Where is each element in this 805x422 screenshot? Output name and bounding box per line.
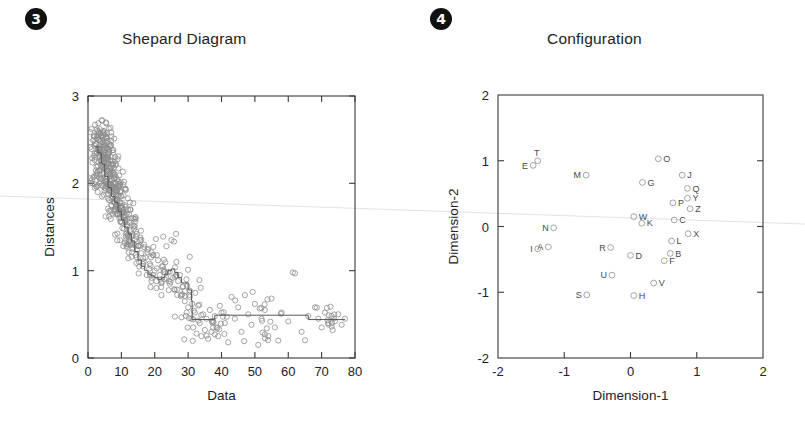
data-point bbox=[147, 261, 152, 266]
data-point bbox=[640, 180, 646, 186]
y-tick-label: 1 bbox=[72, 264, 79, 279]
point-label: H bbox=[639, 291, 646, 301]
x-axis-title: Dimension-1 bbox=[593, 388, 669, 403]
plot-frame bbox=[498, 95, 763, 358]
data-point bbox=[185, 267, 190, 272]
y-tick-label: 2 bbox=[72, 176, 79, 191]
data-point bbox=[239, 329, 244, 334]
point-label: N bbox=[542, 223, 549, 233]
data-point bbox=[250, 289, 255, 294]
point-label: C bbox=[679, 215, 686, 225]
y-tick-label: 0 bbox=[72, 351, 79, 366]
data-point bbox=[268, 319, 273, 324]
data-point bbox=[651, 280, 657, 286]
x-tick-label: 1 bbox=[693, 364, 700, 379]
data-point bbox=[669, 238, 675, 244]
data-point bbox=[679, 172, 685, 178]
data-point bbox=[535, 158, 541, 164]
data-point bbox=[687, 206, 693, 212]
data-point bbox=[319, 325, 324, 330]
x-tick-label: -2 bbox=[492, 364, 504, 379]
data-point bbox=[173, 231, 178, 236]
y-axis-title: Dimension-2 bbox=[446, 189, 461, 265]
data-point bbox=[342, 316, 347, 321]
data-point bbox=[339, 322, 344, 327]
data-point bbox=[194, 331, 199, 336]
data-point bbox=[131, 201, 136, 206]
x-tick-label: 0 bbox=[627, 364, 634, 379]
y-tick-label: 2 bbox=[482, 88, 489, 103]
data-point bbox=[316, 316, 321, 321]
x-tick-label: 40 bbox=[214, 364, 228, 379]
x-tick-label: 30 bbox=[181, 364, 195, 379]
data-point bbox=[217, 303, 222, 308]
point-label: T bbox=[534, 148, 540, 158]
y-tick-label: -1 bbox=[477, 285, 489, 300]
data-point bbox=[584, 292, 590, 298]
data-point bbox=[326, 313, 331, 318]
point-label: F bbox=[669, 256, 675, 266]
data-point bbox=[242, 293, 247, 298]
data-point bbox=[193, 290, 198, 295]
data-point bbox=[155, 258, 160, 263]
data-point bbox=[252, 301, 257, 306]
data-point bbox=[249, 322, 254, 327]
data-point bbox=[322, 310, 327, 315]
data-point bbox=[182, 337, 187, 342]
data-point bbox=[299, 329, 304, 334]
data-point bbox=[192, 310, 197, 315]
x-tick-label: 70 bbox=[314, 364, 328, 379]
data-point bbox=[671, 217, 677, 223]
point-label: U bbox=[600, 270, 607, 280]
point-label: S bbox=[576, 290, 582, 300]
point-label: E bbox=[522, 161, 528, 171]
data-point bbox=[330, 327, 335, 332]
data-point bbox=[685, 185, 691, 191]
x-tick-label: 2 bbox=[759, 364, 766, 379]
y-tick-label: -2 bbox=[477, 351, 489, 366]
shepard-points bbox=[88, 118, 348, 348]
data-point bbox=[197, 277, 202, 282]
data-point bbox=[89, 126, 94, 131]
data-point bbox=[174, 259, 179, 264]
data-point bbox=[199, 334, 204, 339]
data-point bbox=[246, 312, 251, 317]
data-point bbox=[264, 326, 269, 331]
x-tick-label: 0 bbox=[84, 364, 91, 379]
x-tick-label: 60 bbox=[281, 364, 295, 379]
point-label: V bbox=[659, 278, 665, 288]
data-point bbox=[202, 327, 207, 332]
data-point bbox=[226, 340, 231, 345]
data-point bbox=[92, 122, 97, 127]
x-tick-label: 10 bbox=[114, 364, 128, 379]
data-point bbox=[655, 156, 661, 162]
x-tick-label: -1 bbox=[558, 364, 570, 379]
data-point bbox=[236, 305, 241, 310]
data-point bbox=[95, 189, 100, 194]
panel-configuration: 4 Configuration -2-1012-2-1012TEMOJGQYPZ… bbox=[402, 0, 804, 422]
point-label: Q bbox=[692, 184, 699, 194]
data-point bbox=[661, 258, 667, 264]
y-axis-title: Distances bbox=[42, 197, 57, 257]
data-point bbox=[161, 234, 166, 239]
data-point bbox=[242, 339, 247, 344]
data-point bbox=[545, 244, 551, 250]
data-point bbox=[151, 244, 156, 249]
panel-shepard-diagram: 3 Shepard Diagram 010203040506070800123D… bbox=[0, 0, 402, 422]
data-point bbox=[233, 298, 238, 303]
data-point bbox=[608, 245, 614, 251]
point-label: Y bbox=[692, 193, 698, 203]
configuration-plot: -2-1012-2-1012TEMOJGQYPZWCKNXLAIRBDFUVSH… bbox=[402, 0, 805, 422]
data-point bbox=[204, 316, 209, 321]
point-label: O bbox=[663, 154, 670, 164]
data-point bbox=[164, 244, 169, 249]
point-label: P bbox=[678, 198, 684, 208]
data-point bbox=[139, 251, 144, 256]
y-tick-label: 3 bbox=[72, 89, 79, 104]
data-point bbox=[96, 121, 101, 126]
x-tick-label: 50 bbox=[248, 364, 262, 379]
point-label: R bbox=[599, 243, 606, 253]
data-point bbox=[256, 342, 261, 347]
data-point bbox=[583, 172, 589, 178]
x-tick-label: 80 bbox=[348, 364, 362, 379]
